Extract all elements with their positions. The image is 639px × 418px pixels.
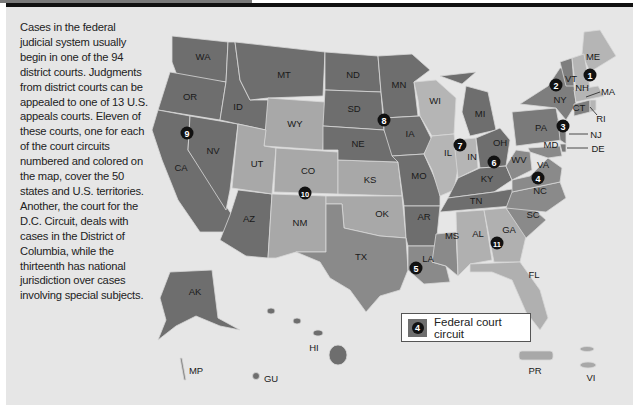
circuit-badge-7: 7: [454, 139, 467, 152]
label-mo: MO: [411, 170, 426, 181]
label-sc: SC: [526, 209, 539, 220]
circuit-badge-2: 2: [550, 79, 563, 92]
label-tn: TN: [470, 195, 483, 206]
label-de: DE: [591, 143, 604, 154]
state-vi: [580, 362, 596, 368]
label-gu: GU: [264, 373, 278, 384]
label-mp: MP: [189, 365, 203, 376]
circuit-badge-1: 1: [584, 69, 597, 82]
label-me: ME: [586, 51, 600, 62]
svg-text:2: 2: [553, 81, 558, 91]
label-oh: OH: [493, 137, 507, 148]
legend-label: Federal court circuit: [434, 316, 530, 340]
label-hi: HI: [309, 342, 319, 353]
label-ms: MS: [445, 230, 459, 241]
label-wy: WY: [287, 118, 303, 129]
state-pr: [519, 351, 553, 360]
label-ca: CA: [174, 162, 188, 173]
state-mp: [180, 358, 186, 380]
label-or: OR: [183, 91, 197, 102]
label-fl: FL: [528, 269, 539, 280]
circuit-badge-8: 8: [378, 114, 391, 127]
label-al: AL: [472, 228, 484, 239]
label-ks: KS: [364, 174, 377, 185]
label-ia: IA: [406, 128, 416, 139]
svg-text:6: 6: [491, 158, 496, 168]
label-ma: MA: [601, 86, 616, 97]
svg-text:5: 5: [413, 264, 418, 274]
label-pr: PR: [528, 365, 541, 376]
label-nd: ND: [346, 69, 360, 80]
label-ak: AK: [189, 286, 202, 297]
circuit-badge-3: 3: [557, 120, 570, 133]
label-mi: MI: [475, 108, 486, 119]
svg-text:9: 9: [184, 129, 189, 139]
svg-text:10: 10: [301, 190, 309, 199]
label-nv: NV: [206, 145, 220, 156]
circuit-badge-11: 11: [491, 237, 504, 250]
label-il: IL: [444, 147, 452, 158]
label-id: ID: [233, 101, 243, 112]
label-ok: OK: [375, 208, 389, 219]
label-nm: NM: [293, 217, 308, 228]
map-legend: 4 Federal court circuit: [401, 313, 531, 342]
federal-circuits-map: WA OR CA NV ID MT WY UT CO AZ NM ND SD N…: [0, 0, 639, 418]
label-pa: PA: [535, 122, 548, 133]
label-wa: WA: [196, 51, 212, 62]
label-la: LA: [422, 253, 434, 264]
label-md: MD: [544, 139, 559, 150]
circuit-badge-10: 10: [299, 187, 312, 200]
svg-text:3: 3: [560, 122, 565, 132]
label-wv: WV: [511, 154, 527, 165]
state-ak: [158, 270, 240, 340]
label-nj: NJ: [590, 129, 602, 140]
circuit-badge-5: 5: [410, 262, 423, 275]
label-va: VA: [537, 159, 550, 170]
label-ar: AR: [417, 211, 430, 222]
label-az: AZ: [243, 213, 255, 224]
svg-text:8: 8: [381, 116, 386, 126]
hawaii-island-kauai: [267, 308, 275, 314]
label-co: CO: [301, 165, 315, 176]
state-gu: [253, 373, 260, 380]
circuit-badge-6: 6: [488, 156, 501, 169]
label-sd: SD: [347, 103, 360, 114]
label-ga: GA: [502, 224, 516, 235]
svg-text:7: 7: [457, 141, 462, 151]
legend-circuit-badge: 4: [412, 322, 424, 334]
label-tx: TX: [355, 251, 368, 262]
label-nh: NH: [575, 82, 589, 93]
hawaii-island-oahu: [293, 318, 301, 324]
label-vi: VI: [587, 372, 596, 383]
svg-text:4: 4: [535, 174, 540, 184]
label-ny: NY: [553, 94, 567, 105]
vi-island-north: [580, 347, 594, 352]
label-ne: NE: [351, 138, 364, 149]
state-hi: [329, 345, 347, 365]
svg-text:1: 1: [587, 71, 592, 81]
svg-text:11: 11: [493, 240, 501, 249]
label-ky: KY: [481, 173, 494, 184]
label-ri: RI: [596, 113, 606, 124]
label-ut: UT: [251, 158, 264, 169]
hawaii-island-maui: [313, 330, 323, 336]
label-ct: CT: [573, 102, 586, 113]
circuit-badge-9: 9: [181, 127, 194, 140]
label-mn: MN: [392, 79, 407, 90]
label-mt: MT: [277, 69, 291, 80]
label-in: IN: [467, 151, 477, 162]
legend-swatch: 4: [408, 319, 427, 337]
label-nc: NC: [533, 185, 547, 196]
circuit-badge-4: 4: [532, 172, 545, 185]
label-wi: WI: [429, 95, 441, 106]
